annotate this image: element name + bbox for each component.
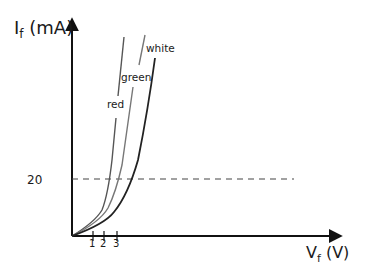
- x-tick-label-1: 1: [89, 238, 95, 249]
- curve-red-upper: [118, 37, 124, 96]
- curve-green-upper: [139, 35, 145, 65]
- label-green: green: [121, 71, 151, 83]
- label-red: red: [107, 98, 124, 110]
- y-axis-label: If (mA): [14, 17, 73, 41]
- y-tick-label-20: 20: [27, 173, 42, 187]
- x-axis-label: Vf (V): [306, 243, 349, 265]
- curve-red: [72, 118, 116, 236]
- x-tick-label-3: 3: [113, 238, 119, 249]
- iv-curve-diagram: If (mA) Vf (V) 20 1 2 3 red green white: [0, 0, 369, 274]
- x-tick-label-2: 2: [100, 238, 106, 249]
- label-white: white: [146, 42, 175, 54]
